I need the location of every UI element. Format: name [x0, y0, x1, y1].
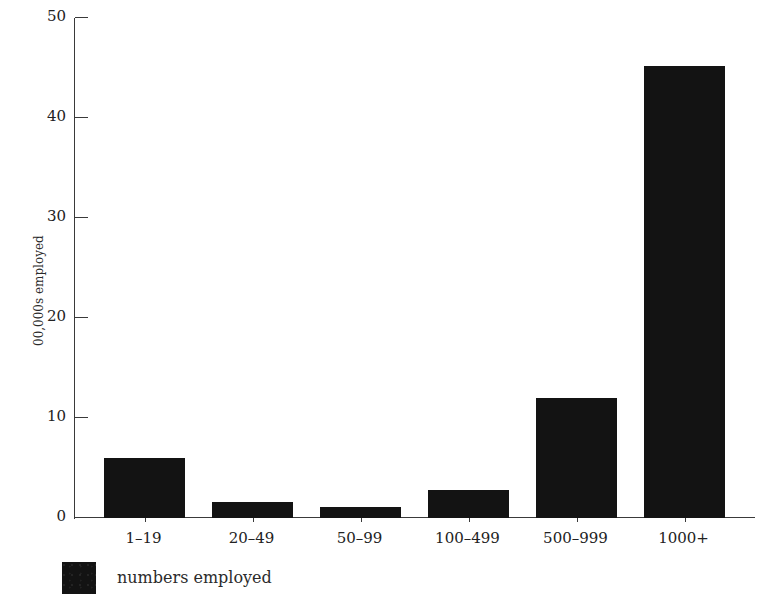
bar	[212, 502, 293, 518]
bar	[536, 398, 617, 518]
bar	[428, 490, 509, 518]
x-axis-label: 100–499	[414, 527, 522, 549]
x-axis-label: 1000+	[630, 527, 738, 549]
bar	[644, 66, 725, 518]
y-axis-tick-label: 20	[47, 307, 66, 326]
x-axis-label: 50–99	[306, 527, 414, 549]
x-axis-label: 20–49	[198, 527, 306, 549]
x-axis-tick	[361, 518, 362, 522]
chart-legend: numbers employed	[62, 562, 272, 594]
y-axis-title-text: 00,000s employed	[29, 235, 49, 346]
bar-chart-figure: 00,000s employed 01020304050 1–1920–4950…	[0, 0, 769, 604]
x-axis-tick	[577, 518, 578, 522]
plot-area: 01020304050	[74, 18, 755, 518]
bars-group	[75, 18, 755, 518]
x-axis-label: 1–19	[90, 527, 198, 549]
bar	[320, 507, 401, 518]
x-axis-tick	[253, 518, 254, 522]
y-axis-title: 00,000s employed	[13, 168, 33, 348]
x-axis-tick	[685, 518, 686, 522]
x-axis-tick	[469, 518, 470, 522]
legend-label-numbers-employed: numbers employed	[117, 567, 272, 589]
legend-swatch-numbers-employed	[62, 562, 96, 594]
y-axis-tick-label: 40	[47, 107, 66, 126]
y-axis-tick-label: 0	[56, 507, 66, 526]
bar	[104, 458, 185, 518]
y-axis-tick-label: 50	[47, 7, 66, 26]
y-axis-tick-label: 30	[47, 207, 66, 226]
x-axis-tick	[145, 518, 146, 522]
x-axis-label: 500–999	[522, 527, 630, 549]
x-axis-labels: 1–1920–4950–99100–499500–9991000+	[74, 527, 755, 553]
y-axis-tick-label: 10	[47, 407, 66, 426]
